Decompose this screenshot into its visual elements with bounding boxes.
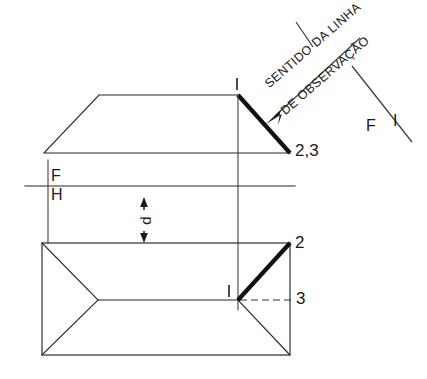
dimension-d-text: d [138, 216, 153, 224]
fi-divider-line [352, 66, 412, 142]
top-view-group [44, 95, 290, 153]
label-ref-h-bottom: H [51, 186, 63, 204]
top-view-points-2-3-text: 2,3 [295, 141, 319, 160]
label-ref-f-top: F [51, 167, 61, 185]
front-view-rectangle-outline [42, 243, 290, 355]
front-view-group [42, 243, 292, 355]
ref-f-right-text: F [366, 117, 376, 134]
technical-drawing-canvas: 2,3 2 3 F H d F I SENTIDO DA LINHA DE OB… [0, 0, 427, 379]
observation-direction-arrowhead-icon [266, 110, 282, 125]
front-view-emphasized-edge [238, 243, 290, 300]
front-view-hip-line-top-left [42, 243, 98, 300]
label-ref-i-right: I [393, 112, 397, 130]
front-view-hip-line-bottom-left [42, 300, 98, 355]
dimension-arrow-up-icon [140, 197, 148, 207]
label-dimension-d: d [136, 213, 155, 229]
label-top-view-points-2-3: 2,3 [295, 141, 319, 161]
ref-h-bottom-text: H [51, 186, 63, 203]
label-front-view-point-3: 3 [296, 289, 305, 309]
label-ref-f-right: F [366, 117, 376, 135]
engineering-drawing-svg [0, 0, 427, 379]
ref-f-top-text: F [51, 167, 61, 184]
front-view-point-3-text: 3 [296, 289, 305, 308]
ref-i-right-text: I [393, 112, 397, 129]
front-view-hip-line-bottom-right [238, 300, 290, 355]
front-view-point-2-text: 2 [295, 233, 304, 252]
top-view-trapezoid-outline [44, 95, 290, 153]
dimension-arrow-down-icon [140, 233, 148, 243]
label-front-view-point-2: 2 [295, 233, 304, 253]
